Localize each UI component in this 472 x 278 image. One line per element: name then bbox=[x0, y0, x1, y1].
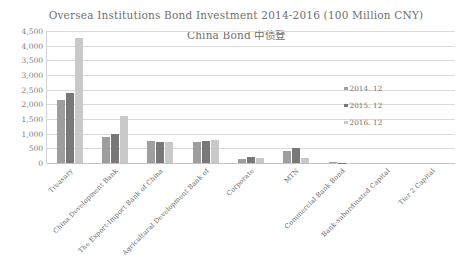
bar bbox=[111, 134, 119, 163]
bar-group bbox=[183, 31, 228, 163]
x-tick-label: Corporate bbox=[225, 167, 256, 198]
bar bbox=[102, 137, 110, 163]
bar-chart: Oversea Institutions Bond Investment 201… bbox=[0, 0, 472, 278]
legend-item[interactable]: 2016. 12 bbox=[344, 114, 414, 131]
legend: 2014. 122015. 122016. 12 bbox=[344, 80, 414, 131]
bar bbox=[120, 116, 128, 163]
y-tick-label: 2,500 bbox=[0, 85, 43, 94]
x-tick-label: Treasury bbox=[47, 167, 75, 195]
legend-label: 2014. 12 bbox=[350, 84, 383, 93]
x-tick-label: Tier 2 Capital bbox=[397, 167, 437, 207]
bar-group bbox=[274, 31, 319, 163]
bar-group bbox=[138, 31, 183, 163]
legend-label: 2015. 12 bbox=[350, 101, 383, 110]
bar-group bbox=[410, 31, 455, 163]
legend-swatch-icon bbox=[344, 121, 348, 125]
bar bbox=[57, 100, 65, 163]
y-tick-label: 1,500 bbox=[0, 115, 43, 124]
bar bbox=[156, 142, 164, 163]
bar bbox=[75, 38, 83, 163]
legend-label: 2016. 12 bbox=[350, 118, 383, 127]
chart-title: Oversea Institutions Bond Investment 201… bbox=[0, 9, 472, 21]
bar bbox=[165, 142, 173, 163]
x-tick-label: Agricultural Development Bank of bbox=[120, 167, 210, 257]
y-tick-label: 4,000 bbox=[0, 41, 43, 50]
y-tick-label: 3,500 bbox=[0, 56, 43, 65]
bar bbox=[202, 141, 210, 163]
bar-group bbox=[228, 31, 273, 163]
x-tick-label: The Export-Import Bank of China bbox=[77, 167, 165, 255]
y-tick-label: 2,000 bbox=[0, 100, 43, 109]
x-axis-tick-labels: TreasuryChina Development BankThe Export… bbox=[46, 163, 454, 275]
x-tick-label: MTN bbox=[283, 167, 301, 185]
bar bbox=[283, 151, 291, 163]
bar bbox=[66, 93, 74, 163]
legend-item[interactable]: 2014. 12 bbox=[344, 80, 414, 97]
y-tick-label: 3,000 bbox=[0, 71, 43, 80]
legend-swatch-icon bbox=[344, 104, 348, 108]
legend-swatch-icon bbox=[344, 87, 348, 91]
bar bbox=[147, 141, 155, 163]
bar bbox=[292, 148, 300, 163]
y-tick-label: 1,000 bbox=[0, 129, 43, 138]
bar-group bbox=[92, 31, 137, 163]
y-tick-label: 4,500 bbox=[0, 27, 43, 36]
legend-item[interactable]: 2015. 12 bbox=[344, 97, 414, 114]
bar bbox=[211, 140, 219, 163]
bar bbox=[193, 142, 201, 163]
y-tick-label: 500 bbox=[0, 144, 43, 153]
bar-group bbox=[47, 31, 92, 163]
y-tick-label: 0 bbox=[0, 159, 43, 168]
y-axis-tick-labels: 4,5004,0003,5003,0002,5002,0001,5001,000… bbox=[0, 31, 43, 163]
